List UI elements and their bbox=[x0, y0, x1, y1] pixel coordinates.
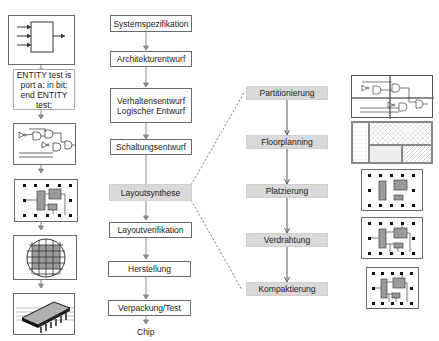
partitioned-schematic-icon bbox=[351, 75, 433, 118]
substep-verdrahtung: Verdrahtung bbox=[246, 233, 328, 247]
substep-label: Platzierung bbox=[266, 186, 309, 196]
substep-floorplanning: Floorplanning bbox=[246, 135, 328, 149]
routing-icon bbox=[361, 217, 423, 259]
placement-icon bbox=[361, 169, 423, 211]
substep-platzierung: Platzierung bbox=[246, 184, 328, 198]
substep-label: Kompaktierung bbox=[258, 284, 315, 294]
substep-label: Floorplanning bbox=[261, 137, 313, 147]
substep-label: Verdrahtung bbox=[264, 235, 310, 245]
substep-kompaktierung: Kompaktierung bbox=[246, 282, 328, 296]
substep-label: Partitionierung bbox=[260, 88, 315, 98]
substep-partitionierung: Partitionierung bbox=[246, 86, 328, 100]
floorplan-icon bbox=[351, 121, 433, 164]
compacted-layout-icon bbox=[366, 267, 419, 309]
